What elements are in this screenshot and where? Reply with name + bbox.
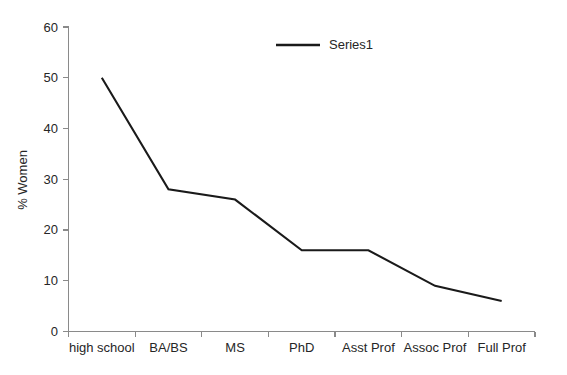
y-tick-label-30: 30 <box>44 172 58 187</box>
legend-label-series1: Series1 <box>329 37 373 52</box>
y-tick-label-0: 0 <box>51 324 58 339</box>
y-tick-label-10: 10 <box>44 273 58 288</box>
x-tick-label-asst-prof: Asst Prof <box>342 340 395 355</box>
y-tick-label-50: 50 <box>44 70 58 85</box>
x-tick-label-high-school: high school <box>69 340 135 355</box>
y-tick-label-40: 40 <box>44 121 58 136</box>
x-tick-label-assoc-prof: Assoc Prof <box>404 340 467 355</box>
y-tick-label-20: 20 <box>44 222 58 237</box>
chart-background <box>0 0 567 375</box>
x-tick-label-ms: MS <box>225 340 245 355</box>
y-tick-label-60: 60 <box>44 20 58 35</box>
line-chart: 0 10 20 30 40 50 60 % Women <box>0 0 567 375</box>
x-tick-label-phd: PhD <box>289 340 314 355</box>
chart-canvas: 0 10 20 30 40 50 60 % Women <box>0 0 567 375</box>
x-tick-label-full-prof: Full Prof <box>477 340 526 355</box>
x-tick-label-ba-bs: BA/BS <box>149 340 188 355</box>
y-axis-title: % Women <box>15 150 30 210</box>
